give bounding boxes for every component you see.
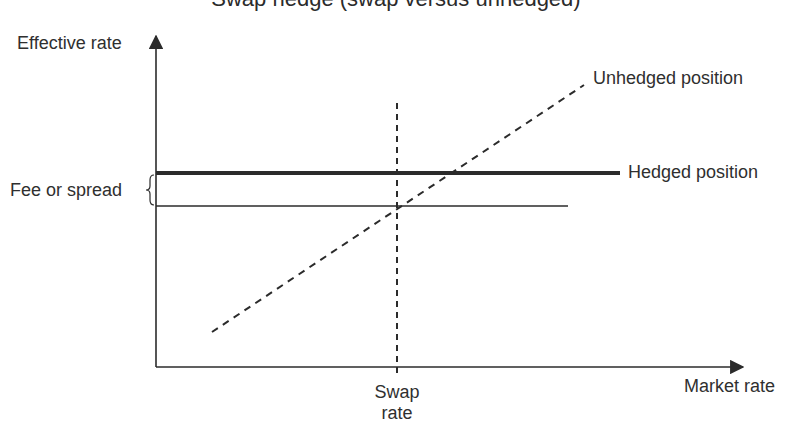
y-axis-label: Effective rate — [17, 33, 122, 54]
swap-rate-label-line2: rate — [362, 403, 432, 424]
swap-rate-label: Swap rate — [362, 382, 432, 423]
fee-spread-brace — [146, 175, 154, 205]
unhedged-position-label: Unhedged position — [593, 68, 743, 89]
fee-or-spread-label: Fee or spread — [10, 180, 122, 201]
diagram-canvas — [0, 0, 792, 430]
x-axis-label: Market rate — [684, 376, 775, 397]
swap-rate-label-line1: Swap — [362, 382, 432, 403]
hedged-position-label: Hedged position — [628, 162, 758, 183]
